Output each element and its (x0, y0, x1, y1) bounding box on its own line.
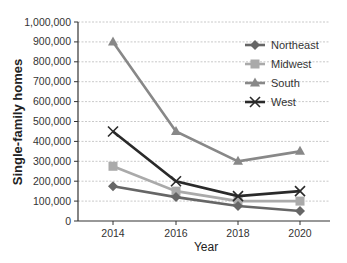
y-tick-label: 200,000 (33, 175, 71, 187)
diamond-marker (295, 206, 305, 216)
square-marker (296, 197, 305, 206)
triangle-marker (295, 146, 305, 155)
x-tick-label: 2020 (288, 227, 312, 239)
legend-label: Midwest (271, 58, 311, 70)
y-tick-label: 500,000 (33, 115, 71, 127)
y-tick-label: 700,000 (33, 75, 71, 87)
y-tick-label: 0 (65, 215, 71, 227)
triangle-marker (108, 36, 118, 45)
line-chart: 0100,000200,000300,000400,000500,000600,… (0, 0, 347, 263)
diamond-marker (108, 181, 118, 191)
legend-item-west: West (245, 96, 296, 108)
legend-item-midwest: Midwest (245, 58, 311, 70)
y-tick-label: 900,000 (33, 35, 71, 47)
series-line (113, 186, 300, 211)
x-tick-label: 2018 (226, 227, 250, 239)
legend-item-south: South (245, 77, 300, 89)
x-tick-label: 2014 (101, 227, 125, 239)
x-tick-label: 2016 (164, 227, 188, 239)
y-tick-label: 800,000 (33, 55, 71, 67)
legend: NortheastMidwestSouthWest (245, 39, 319, 108)
series-line (113, 166, 300, 201)
y-tick-label: 100,000 (33, 195, 71, 207)
x-tick-labels: 2014201620182020 (101, 221, 312, 239)
legend-item-northeast: Northeast (245, 39, 319, 51)
legend-label: West (271, 96, 296, 108)
square-marker (251, 60, 260, 69)
legend-label: Northeast (271, 39, 319, 51)
y-tick-label: 600,000 (33, 95, 71, 107)
y-tick-labels: 0100,000200,000300,000400,000500,000600,… (24, 16, 78, 227)
square-marker (109, 162, 118, 171)
legend-label: South (271, 77, 300, 89)
series-northeast (108, 181, 305, 216)
y-tick-label: 300,000 (33, 155, 71, 167)
y-axis-label: Single-family homes (10, 59, 25, 185)
series-midwest (109, 162, 305, 206)
y-tick-label: 400,000 (33, 135, 71, 147)
y-tick-label: 1,000,000 (24, 16, 71, 28)
x-axis-label: Year (194, 240, 218, 254)
